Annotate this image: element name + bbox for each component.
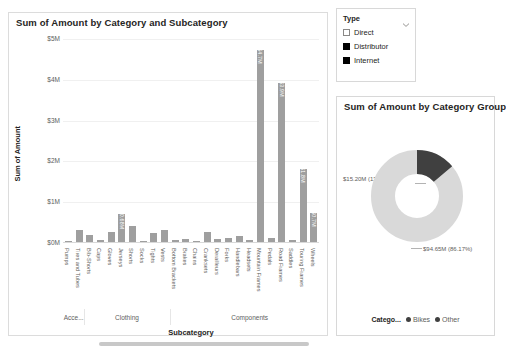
bar-slot[interactable]: $0.68M (116, 39, 127, 242)
bar-slot[interactable] (180, 39, 191, 242)
bar[interactable] (65, 241, 72, 243)
bar[interactable] (182, 239, 189, 242)
donut-graphic[interactable] (370, 149, 464, 243)
slicer-item-internet[interactable]: Internet (343, 53, 415, 67)
x-axis-tick-label: Pedals (267, 248, 273, 265)
bar[interactable] (150, 233, 157, 242)
bar[interactable] (129, 226, 136, 242)
bar[interactable]: $3.9M (278, 83, 285, 242)
bar[interactable]: $0.68M (118, 214, 125, 242)
bar[interactable] (204, 232, 211, 242)
bar[interactable] (268, 238, 275, 242)
bar-slot[interactable] (234, 39, 245, 242)
checkbox-internet[interactable] (343, 57, 350, 64)
bar[interactable] (172, 240, 179, 242)
x-axis-tick-label: Jerseys (118, 248, 124, 267)
donut-chart-visual[interactable]: Sum of Amount by Category Group $15.20M … (336, 96, 495, 336)
bar[interactable] (236, 236, 243, 242)
slicer-title: Type (343, 14, 360, 23)
bar-slot[interactable]: $1.8M (298, 39, 309, 242)
bar-series[interactable]: $0.68M$4.7M$3.9M$1.8M$0.7M (63, 39, 319, 242)
bar[interactable] (225, 238, 232, 242)
checkbox-distributor[interactable] (343, 43, 350, 50)
category-group-labels: Acce...ClothingComponents (63, 314, 319, 326)
bar-slot[interactable] (127, 39, 138, 242)
bar-slot[interactable] (287, 39, 298, 242)
x-axis-tick: Bib-Shorts (84, 247, 95, 309)
y-axis-title: Sum of Amount (13, 126, 22, 182)
bar-slot[interactable] (212, 39, 223, 242)
bar[interactable] (86, 235, 93, 242)
bar[interactable] (140, 241, 147, 243)
legend-swatch-other (435, 317, 440, 322)
donut-legend[interactable]: Catego... Bikes Other (337, 316, 494, 323)
bar[interactable] (193, 241, 200, 243)
bar-chart-plot-area: Sum of Amount $5M$4M$3M$2M$1M$0M $0.68M$… (9, 31, 327, 335)
bar-slot[interactable] (223, 39, 234, 242)
bar-slot[interactable] (138, 39, 149, 242)
bar-slot[interactable]: $3.9M (276, 39, 287, 242)
bar-slot[interactable]: $4.7M (255, 39, 266, 242)
x-axis-tick: Road Frames (276, 247, 287, 309)
y-axis-tick: $3M (26, 118, 60, 124)
bar-slot[interactable] (202, 39, 213, 242)
x-axis-tick: Headsets (244, 247, 255, 309)
bar-slot[interactable] (74, 39, 85, 242)
bar[interactable] (97, 240, 104, 242)
x-axis-tick: Gloves (106, 247, 117, 309)
chevron-down-icon[interactable] (402, 15, 410, 23)
bar-slot[interactable] (244, 39, 255, 242)
x-axis-tick: Pedals (266, 247, 277, 309)
bar-slot[interactable] (159, 39, 170, 242)
bar[interactable]: $1.8M (300, 169, 307, 242)
bar-slot[interactable] (63, 39, 74, 242)
bar-slot[interactable] (191, 39, 202, 242)
x-axis-tick: Brakes (180, 247, 191, 309)
category-group-label: Acce... (63, 314, 84, 321)
bar-slot[interactable]: $0.7M (308, 39, 319, 242)
x-axis-tick-label: Gloves (107, 248, 113, 265)
legend-item-bikes[interactable]: Bikes (406, 316, 430, 323)
x-axis-tick-label: Brakes (182, 248, 188, 265)
x-axis-tick-label: Forks (224, 248, 230, 262)
bar[interactable] (76, 230, 83, 242)
bar[interactable] (108, 232, 115, 242)
x-axis-tick: Tires and Tubes (74, 247, 85, 309)
x-axis-tick: Mountain Frames (255, 247, 266, 309)
x-axis-line (63, 242, 319, 243)
x-axis-tick-label: Socks (139, 248, 145, 263)
bar-slot[interactable] (170, 39, 181, 242)
bar[interactable] (289, 240, 296, 242)
x-axis-tick: Touring Frames (298, 247, 309, 309)
slicer-item-list[interactable]: DirectDistributorInternet (337, 25, 415, 67)
x-axis-tick-label: Derailleurs (214, 248, 220, 275)
bar[interactable] (214, 239, 221, 242)
x-axis-tick-label: Handlebars (235, 248, 241, 277)
type-slicer[interactable]: Type DirectDistributorInternet (336, 8, 416, 82)
bar-slot[interactable] (106, 39, 117, 242)
horizontal-scrollbar[interactable] (99, 342, 309, 346)
donut-label-other-text: $94.65M (86.17%) (423, 246, 472, 252)
legend-item-other[interactable]: Other (435, 316, 460, 323)
bar[interactable]: $0.7M (310, 213, 317, 242)
plot: $0.68M$4.7M$3.9M$1.8M$0.7M (63, 39, 319, 243)
x-axis-tick-labels: PumpsTires and TubesBib-ShortsCapsGloves… (63, 247, 319, 309)
bar-slot[interactable] (266, 39, 277, 242)
y-axis-tick: $5M (26, 36, 60, 42)
category-group-label: Clothing (84, 314, 169, 321)
bar-slot[interactable] (148, 39, 159, 242)
bar-data-label: $4.7M (257, 49, 263, 64)
bar-slot[interactable] (95, 39, 106, 242)
slicer-item-distributor[interactable]: Distributor (343, 39, 415, 53)
y-axis-tick: $0M (26, 240, 60, 246)
bar[interactable] (161, 230, 168, 242)
x-axis-tick-label: Shorts (128, 248, 134, 264)
bar[interactable]: $4.7M (257, 50, 264, 242)
bar-chart-visual[interactable]: Sum of Amount by Category and Subcategor… (8, 12, 328, 336)
donut-label-other: $94.65M (86.17%) (423, 245, 472, 253)
x-axis-tick-label: Bib-Shorts (86, 248, 92, 274)
bar[interactable] (246, 240, 253, 242)
checkbox-direct[interactable] (343, 29, 350, 36)
bar-slot[interactable] (84, 39, 95, 242)
